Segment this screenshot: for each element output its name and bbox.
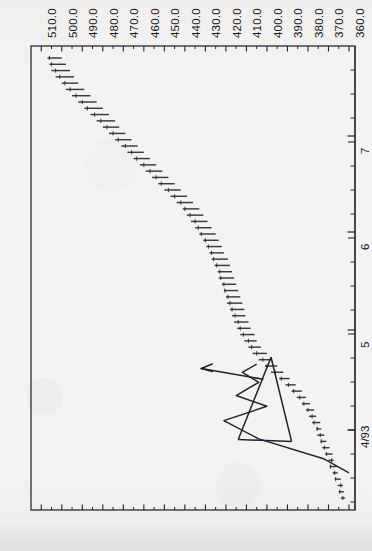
price-axis-tick-label: 490.0 bbox=[87, 8, 99, 38]
price-bar-series bbox=[47, 56, 344, 500]
price-axis-tick-label: 500.0 bbox=[67, 8, 79, 38]
lower-support-trendline bbox=[259, 439, 349, 473]
price-axis-tick-label: 360.0 bbox=[354, 8, 366, 38]
price-axis-tick-label: 410.0 bbox=[251, 8, 263, 38]
time-axis-tick-label: 4/93 bbox=[359, 426, 371, 448]
price-axis-tick-label: 440.0 bbox=[190, 8, 202, 38]
price-axis-tick-label: 470.0 bbox=[128, 8, 140, 38]
price-axis-tick-label: 450.0 bbox=[169, 8, 181, 38]
price-axis-tick-label: 380.0 bbox=[313, 8, 325, 38]
price-axis-tick-label: 430.0 bbox=[210, 8, 222, 38]
price-axis-tick-label: 390.0 bbox=[292, 8, 304, 38]
price-axis-tick-label: 400.0 bbox=[272, 8, 284, 38]
price-axis-tick-label: 510.0 bbox=[46, 8, 58, 38]
price-axis-tick-label: 420.0 bbox=[231, 8, 243, 38]
time-axis-tick-label: 7 bbox=[359, 148, 371, 154]
time-axis-tick-label: 5 bbox=[359, 342, 371, 348]
chart-page: 510.0500.0490.0480.0470.0460.0450.0440.0… bbox=[0, 0, 372, 551]
price-axis-tick-label: 480.0 bbox=[108, 8, 120, 38]
swing-trendline-zigzag bbox=[224, 364, 267, 439]
price-chart bbox=[0, 0, 372, 551]
price-axis-tick-label: 460.0 bbox=[149, 8, 161, 38]
time-axis-tick-label: 6 bbox=[359, 244, 371, 250]
price-axis-tick-label: 370.0 bbox=[333, 8, 345, 38]
